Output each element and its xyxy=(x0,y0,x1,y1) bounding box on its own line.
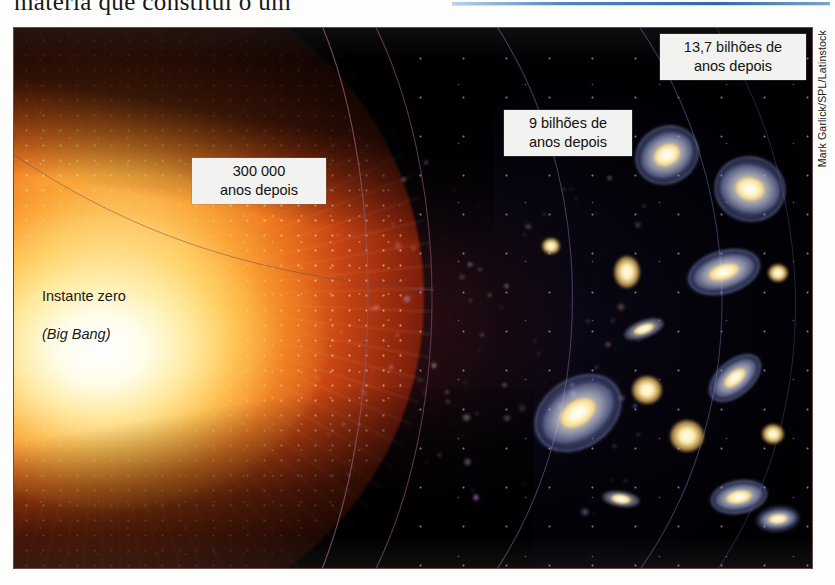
protogalaxy-speck xyxy=(370,307,375,311)
callout-9-bilhoes: 9 bilhões de anos depois xyxy=(504,110,632,156)
label-big-bang-line2: (Big Bang) xyxy=(42,325,126,344)
galaxy-elliptical-1 xyxy=(632,376,662,404)
protogalaxy-speck xyxy=(384,409,386,411)
protogalaxy-speck xyxy=(327,433,330,436)
blue-rule-divider xyxy=(452,2,830,5)
cutoff-body-text-line: matéria que constituí o um xyxy=(0,0,420,16)
callout-137-bilhoes: 13,7 bilhões de anos depois xyxy=(660,34,806,80)
label-instante-zero: Instante zero (Big Bang) xyxy=(42,268,126,362)
protogalaxy-speck xyxy=(336,284,339,286)
protogalaxy-speck xyxy=(316,349,318,351)
protogalaxy-speck xyxy=(331,272,334,275)
protogalaxy-speck xyxy=(364,392,368,395)
callout-300000-anos: 300 000 anos depois xyxy=(192,158,326,204)
galaxy-elliptical-3 xyxy=(614,256,640,288)
protogalaxy-speck xyxy=(322,428,324,430)
protogalaxy-speck xyxy=(336,234,340,237)
protogalaxy-speck xyxy=(356,252,359,255)
protogalaxy-speck xyxy=(371,344,372,345)
protogalaxy-speck xyxy=(332,267,334,269)
protogalaxy-speck xyxy=(387,308,389,309)
protogalaxy-speck xyxy=(342,422,346,426)
scanned-page: matéria que constituí o um xyxy=(0,0,835,585)
cosmology-illustration: Instante zero (Big Bang) 300 000 anos de… xyxy=(14,28,812,568)
protogalaxy-speck xyxy=(354,441,356,443)
protogalaxy-speck xyxy=(320,324,324,327)
galaxy-elliptical-4 xyxy=(762,424,784,444)
photo-credit: Mark Garlick/SPL/Latinstock xyxy=(816,30,828,167)
galaxy-elliptical-5 xyxy=(768,264,788,282)
cutoff-body-text: matéria que constituí o um xyxy=(0,0,420,18)
label-instante-zero-line1: Instante zero xyxy=(42,287,126,306)
protogalaxy-speck xyxy=(343,280,346,282)
galaxy-spiral-6 xyxy=(755,504,801,534)
protogalaxy-speck xyxy=(347,473,348,474)
protogalaxy-speck xyxy=(371,368,373,371)
galaxy-elliptical-6 xyxy=(542,238,560,254)
protogalaxy-speck xyxy=(316,377,320,380)
protogalaxy-speck xyxy=(358,342,361,344)
galaxy-elliptical-2 xyxy=(670,420,704,452)
protogalaxy-speck xyxy=(344,117,346,119)
protogalaxy-speck xyxy=(339,330,343,335)
protogalaxy-speck xyxy=(331,328,333,330)
